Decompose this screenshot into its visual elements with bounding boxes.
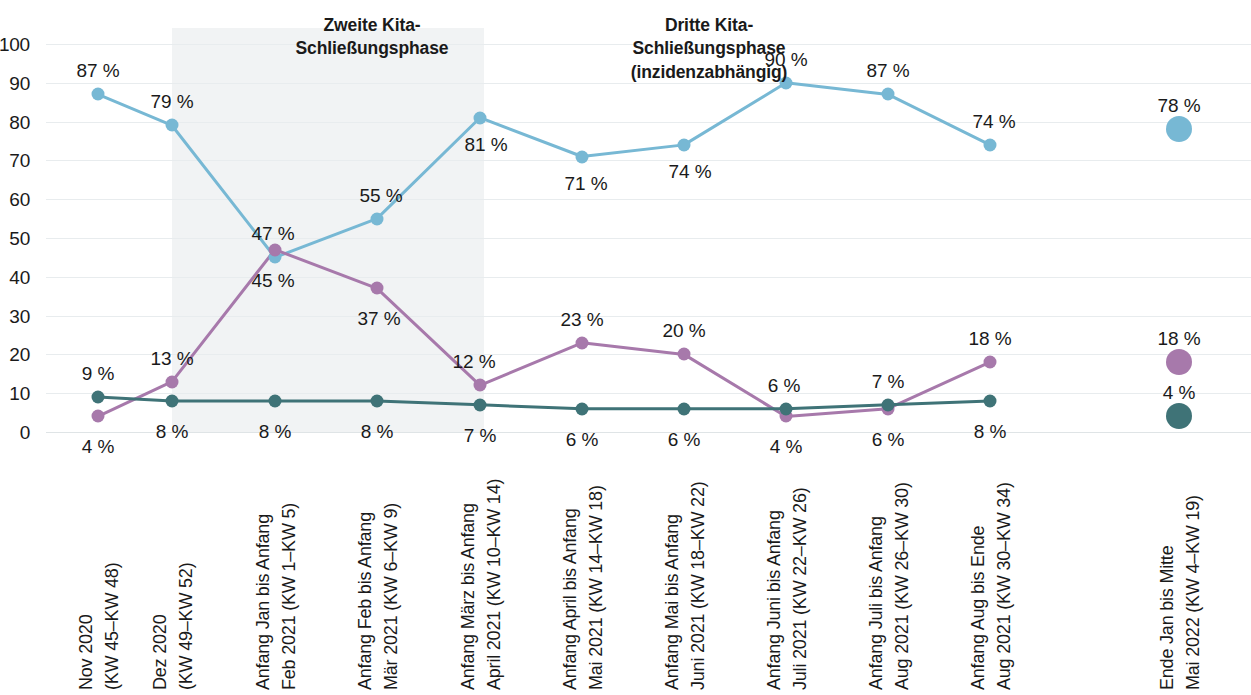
x-axis-label-8: Anfang Juli bis Anfang Aug 2021 (KW 26–K… (864, 440, 915, 690)
line-blue-series (98, 83, 990, 258)
x-axis-label-5: Anfang April bis Anfang Mai 2021 (KW 14–… (558, 440, 609, 690)
data-point-blue-series-0 (92, 88, 105, 101)
line-purple-series (98, 250, 990, 417)
value-label-purple-series-3: 37 % (358, 309, 401, 328)
annotation-zweite-schliessungsphase: Zweite Kita- Schließungsphase (222, 14, 522, 61)
value-label-blue-series-6: 74 % (669, 162, 712, 181)
value-label-blue-series-2: 47 % (252, 224, 295, 243)
data-point-teal-series-2 (269, 394, 282, 407)
data-point-teal-series-3 (371, 394, 384, 407)
value-label-teal-series-0: 9 % (82, 364, 114, 383)
y-tick-label-0: 0 (0, 423, 39, 442)
x-axis-label-1: Dez 2020 (KW 49–KW 52) (148, 440, 199, 690)
data-point-purple-series-4 (474, 379, 487, 392)
x-axis-label-0: Nov 2020 (KW 45–KW 48) (74, 440, 125, 690)
value-label-teal-series-3: 8 % (361, 422, 393, 441)
data-point-teal-series-1 (166, 394, 179, 407)
value-label-teal-series-8: 7 % (872, 372, 904, 391)
data-point-blue-series-1 (166, 119, 179, 132)
value-label-teal-series-7: 6 % (768, 376, 800, 395)
y-tick-label-70: 70 (0, 151, 39, 170)
data-point-blue-series-10 (1166, 116, 1192, 142)
y-tick-label-10: 10 (0, 384, 39, 403)
value-label-purple-series-9: 18 % (969, 329, 1012, 348)
data-point-purple-series-5 (576, 336, 589, 349)
data-point-purple-series-1 (166, 375, 179, 388)
data-point-teal-series-9 (984, 394, 997, 407)
value-label-teal-series-9: 8 % (974, 422, 1006, 441)
data-point-teal-series-10 (1166, 403, 1192, 429)
y-tick-label-90: 90 (0, 73, 39, 92)
x-axis-label-4: Anfang März bis Anfang April 2021 (KW 10… (456, 440, 507, 690)
data-point-purple-series-2 (269, 243, 282, 256)
value-label-purple-series-1: 13 % (151, 349, 194, 368)
x-axis-label-10: Ende Jan bis Mitte Mai 2022 (KW 4–KW 19) (1155, 440, 1206, 690)
line-chart: 0102030405060708090100 87 %79 %47 %55 %8… (0, 0, 1251, 695)
value-label-purple-series-10: 18 % (1158, 329, 1201, 348)
y-tick-label-50: 50 (0, 229, 39, 248)
data-point-purple-series-3 (371, 282, 384, 295)
value-label-purple-series-5: 23 % (561, 310, 604, 329)
value-label-blue-series-4: 81 % (465, 135, 508, 154)
y-tick-label-40: 40 (0, 267, 39, 286)
data-point-teal-series-4 (474, 398, 487, 411)
data-point-purple-series-0 (92, 410, 105, 423)
value-label-blue-series-1: 79 % (151, 92, 194, 111)
data-point-blue-series-6 (678, 138, 691, 151)
data-point-blue-series-4 (474, 111, 487, 124)
data-point-blue-series-8 (882, 88, 895, 101)
x-axis-label-9: Anfang Aug bis Ende Aug 2021 (KW 30–KW 3… (966, 440, 1017, 690)
value-label-purple-series-2: 45 % (252, 271, 295, 290)
data-point-teal-series-6 (678, 402, 691, 415)
value-label-blue-series-5: 71 % (565, 174, 608, 193)
y-tick-label-100: 100 (0, 35, 39, 54)
data-point-teal-series-0 (92, 391, 105, 404)
y-tick-label-80: 80 (0, 112, 39, 131)
x-axis-label-3: Anfang Feb bis Anfang Mär 2021 (KW 6–KW … (353, 440, 404, 690)
data-point-purple-series-6 (678, 348, 691, 361)
y-tick-label-20: 20 (0, 345, 39, 364)
data-point-blue-series-5 (576, 150, 589, 163)
value-label-teal-series-10: 4 % (1163, 383, 1195, 402)
value-label-blue-series-8: 87 % (867, 61, 910, 80)
value-label-blue-series-10: 78 % (1158, 96, 1201, 115)
data-point-teal-series-8 (882, 398, 895, 411)
data-point-purple-series-9 (984, 356, 997, 369)
value-label-teal-series-1: 8 % (156, 422, 188, 441)
plot-area: 0102030405060708090100 87 %79 %47 %55 %8… (46, 44, 1251, 432)
value-label-blue-series-3: 55 % (360, 186, 403, 205)
value-label-purple-series-6: 20 % (663, 321, 706, 340)
data-point-purple-series-10 (1166, 349, 1192, 375)
value-label-blue-series-0: 87 % (77, 61, 120, 80)
data-point-blue-series-9 (984, 138, 997, 151)
annotation-dritte-schliessungsphase: Dritte Kita- Schließungsphase (inzidenza… (559, 14, 859, 84)
x-axis-label-7: Anfang Juni bis Anfang Juli 2021 (KW 22–… (762, 440, 813, 690)
data-point-teal-series-7 (780, 402, 793, 415)
value-label-blue-series-9: 74 % (973, 112, 1016, 131)
data-point-teal-series-5 (576, 402, 589, 415)
x-axis-label-2: Anfang Jan bis Anfang Feb 2021 (KW 1–KW … (251, 440, 302, 690)
x-axis-label-6: Anfang Mai bis Anfang Juni 2021 (KW 18–K… (660, 440, 711, 690)
gridline-0 (46, 432, 1251, 433)
value-label-purple-series-4: 12 % (453, 352, 496, 371)
line-teal-series (98, 397, 990, 409)
data-point-blue-series-3 (371, 212, 384, 225)
value-label-teal-series-2: 8 % (259, 422, 291, 441)
y-tick-label-30: 30 (0, 306, 39, 325)
x-axis-labels: Nov 2020 (KW 45–KW 48)Dez 2020 (KW 49–KW… (46, 440, 1251, 695)
series-lines (46, 44, 1251, 432)
y-tick-label-60: 60 (0, 190, 39, 209)
